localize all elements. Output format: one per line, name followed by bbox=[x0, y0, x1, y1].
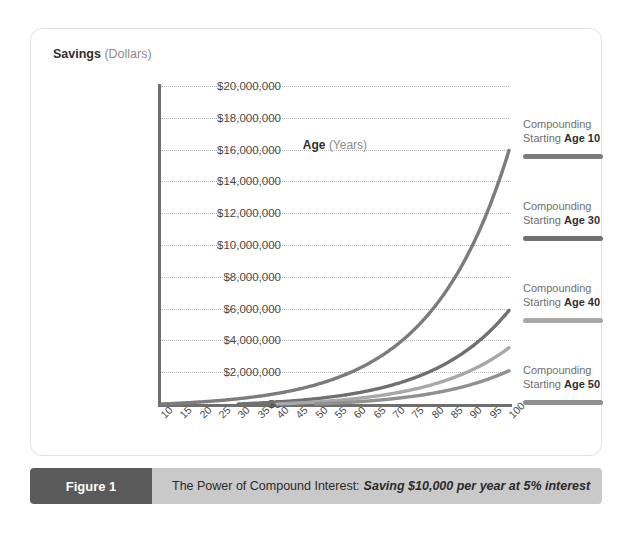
legend-label-line1: Compounding bbox=[523, 363, 632, 377]
legend-color-swatch bbox=[523, 154, 603, 159]
legend-item-3: CompoundingStarting Age 40 bbox=[523, 281, 632, 323]
x-axis-title: Age (Years) bbox=[161, 138, 509, 152]
figure-panel: Savings (Dollars) $0$2,000,000$4,000,000… bbox=[0, 0, 632, 541]
legend-label-age: Age 30 bbox=[564, 214, 600, 226]
legend-item-label: CompoundingStarting Age 10 bbox=[523, 117, 632, 145]
figure-number: Figure 1 bbox=[30, 468, 152, 504]
caption-lead: The Power of Compound Interest: bbox=[172, 479, 360, 493]
plot-area: $0$2,000,000$4,000,000$6,000,000$8,000,0… bbox=[161, 86, 509, 404]
chart-card: Savings (Dollars) $0$2,000,000$4,000,000… bbox=[30, 28, 602, 456]
y-axis-title-bold: Savings bbox=[53, 47, 101, 61]
legend-color-swatch bbox=[523, 236, 603, 241]
figure-caption-text: The Power of Compound Interest: Saving $… bbox=[152, 468, 602, 504]
figure-caption-bar: Figure 1 The Power of Compound Interest:… bbox=[30, 468, 602, 504]
x-axis-title-bold: Age bbox=[303, 138, 326, 152]
x-axis-title-unit: (Years) bbox=[329, 138, 367, 152]
legend-label-line2: Starting Age 10 bbox=[523, 131, 632, 145]
y-axis-title: Savings (Dollars) bbox=[53, 47, 152, 61]
caption-emphasis: Saving $10,000 per year at 5% interest bbox=[364, 479, 591, 493]
legend-item-4: CompoundingStarting Age 50 bbox=[523, 363, 632, 405]
legend-color-swatch bbox=[523, 400, 603, 405]
curve-30 bbox=[238, 310, 509, 404]
legend-label-age: Age 50 bbox=[564, 378, 600, 390]
legend-label-line1: Compounding bbox=[523, 117, 632, 131]
legend-item-label: CompoundingStarting Age 40 bbox=[523, 281, 632, 309]
legend-item-label: CompoundingStarting Age 50 bbox=[523, 363, 632, 391]
legend-item-2: CompoundingStarting Age 30 bbox=[523, 199, 632, 241]
legend-label-line2: Starting Age 50 bbox=[523, 377, 632, 391]
curve-40 bbox=[277, 348, 509, 404]
legend-label-age: Age 10 bbox=[564, 132, 600, 144]
legend-item-1: CompoundingStarting Age 10 bbox=[523, 117, 632, 159]
legend-label-line1: Compounding bbox=[523, 281, 632, 295]
y-axis-title-unit: (Dollars) bbox=[104, 47, 151, 61]
legend-label-line2: Starting Age 30 bbox=[523, 213, 632, 227]
legend-label-line2: Starting Age 40 bbox=[523, 295, 632, 309]
curve-10 bbox=[161, 150, 509, 404]
legend-label-age: Age 40 bbox=[564, 296, 600, 308]
legend-label-line1: Compounding bbox=[523, 199, 632, 213]
legend-item-label: CompoundingStarting Age 30 bbox=[523, 199, 632, 227]
x-axis-tick-labels: 101520253035404550556065707580859095100 bbox=[161, 408, 521, 456]
legend-color-swatch bbox=[523, 318, 603, 323]
curve-series-group bbox=[161, 86, 509, 404]
